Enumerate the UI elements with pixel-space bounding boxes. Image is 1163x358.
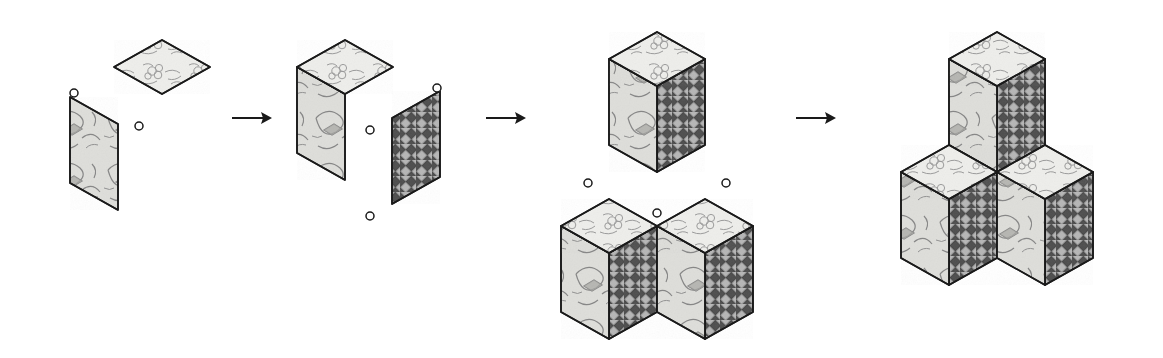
- step-1-separate-patches: [70, 40, 210, 210]
- alignment-dot-3a: [584, 179, 592, 187]
- cluster-cube-top: [949, 32, 1045, 172]
- alignment-dot-2b: [366, 126, 374, 134]
- patch-left-grain: [70, 97, 118, 210]
- alignment-dot-1b: [135, 122, 143, 130]
- cluster-cube-left: [901, 145, 997, 285]
- cube-top: [609, 32, 705, 172]
- alignment-dot-1a: [70, 89, 78, 97]
- arrow-step-1-to-2: [232, 112, 272, 124]
- diagram-canvas: [0, 0, 1163, 358]
- arrow-step-2-to-3: [486, 112, 526, 124]
- step-2-two-faces-joined: [297, 40, 441, 220]
- assembly-diagram: [0, 0, 1163, 358]
- top-face-grain: [114, 40, 210, 94]
- alignment-dot-2a: [433, 84, 441, 92]
- cube-bottom-right: [657, 199, 753, 339]
- alignment-dot-3c: [653, 209, 661, 217]
- alignment-dot-2c: [366, 212, 374, 220]
- step-3-three-cubes-apart: [561, 32, 753, 339]
- alignment-dot-3b: [722, 179, 730, 187]
- step-4-assembled-cluster: [901, 32, 1093, 285]
- cube-bottom-left: [561, 199, 657, 339]
- arrow-step-3-to-4: [796, 112, 836, 124]
- cluster-cube-right: [997, 145, 1093, 285]
- patch-right-grain: [392, 91, 440, 204]
